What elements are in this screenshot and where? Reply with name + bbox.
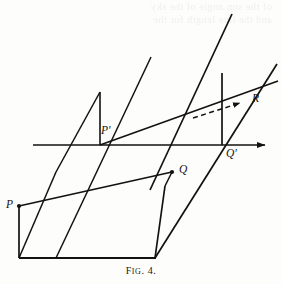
label-point-p: P (6, 199, 13, 211)
dashed-arrow-to-r (193, 103, 240, 118)
caption-small: IG (132, 267, 142, 276)
label-point-q-prime: Q' (226, 148, 237, 160)
caption-suffix: . 4. (141, 265, 156, 276)
triangle-hypotenuse (56, 92, 100, 172)
label-point-p-prime: P' (101, 125, 110, 137)
slant-left-long-line (19, 172, 56, 258)
slant-second-line (56, 57, 151, 258)
q-vertical-edge (155, 186, 165, 258)
label-point-q: Q (179, 164, 187, 176)
figure-caption: FIG. 4. (0, 265, 282, 276)
point-marker-p (17, 204, 21, 208)
label-point-r: R (252, 93, 259, 105)
figure-drawing (0, 0, 282, 284)
p-to-q-top-edge (19, 172, 172, 206)
pprime-to-r-line (100, 81, 278, 145)
point-marker-q (170, 170, 174, 174)
figure-container: of the sun angle of the sky and the line… (0, 0, 282, 284)
